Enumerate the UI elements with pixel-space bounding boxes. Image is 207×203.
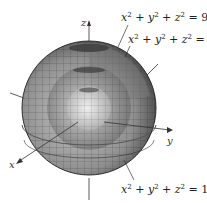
label-middle-sphere: x2 + y2 + z2 = 4 bbox=[128, 34, 207, 45]
label-inner-sphere: x2 + y2 + z2 = 1 bbox=[121, 184, 207, 195]
sphere-diagram bbox=[0, 0, 207, 203]
label-outer-sphere: x2 + y2 + z2 = 9 bbox=[121, 12, 207, 23]
x-axis-label: x bbox=[9, 160, 15, 170]
y-axis-label: y bbox=[167, 136, 173, 146]
z-axis-label: z bbox=[81, 18, 86, 28]
